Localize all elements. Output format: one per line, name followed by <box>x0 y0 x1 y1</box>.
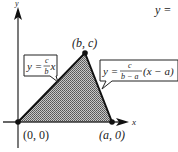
diagram-canvas: y x (b, c) (0, 0) (a, 0) y = c b x y = c… <box>0 0 178 152</box>
vertex-origin-label: (0, 0) <box>23 128 49 142</box>
callout-left-rhs: x <box>50 60 56 72</box>
callout-left-lhs: y = <box>26 60 42 72</box>
callout-right-numerator: c <box>128 61 132 70</box>
vertex-base-right-dot <box>109 119 115 125</box>
callout-left-denominator: b <box>45 67 49 76</box>
callout-left-line-equation: y = c b x <box>24 55 58 82</box>
callout-right-denominator: b − a <box>121 72 138 81</box>
callout-right-line-equation: y = c b − a (x − a) <box>100 60 178 89</box>
top-right-equation-fragment: y = <box>154 3 171 17</box>
callout-right-lhs: y = <box>102 65 118 77</box>
vertex-origin-dot <box>15 119 21 125</box>
vertex-apex-label: (b, c) <box>72 36 97 50</box>
callout-right-rhs: (x − a) <box>143 65 174 78</box>
x-axis-label: x <box>131 117 136 127</box>
callout-left-numerator: c <box>45 56 49 65</box>
y-axis-label: y <box>14 0 19 8</box>
vertex-apex-dot <box>82 50 88 56</box>
vertex-base-right-label: (a, 0) <box>99 128 125 142</box>
